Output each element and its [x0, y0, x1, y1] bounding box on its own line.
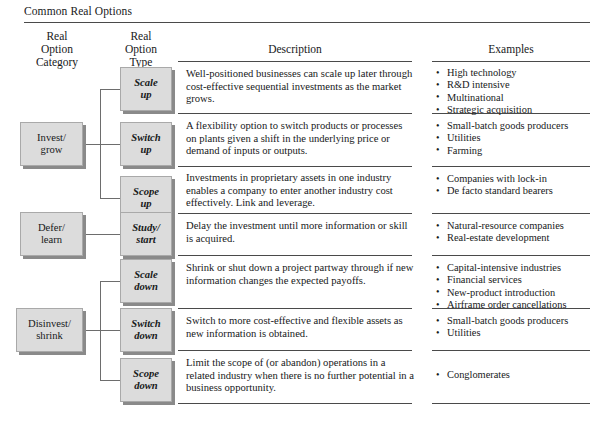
row-separator-7-examples	[432, 403, 590, 404]
examples-list-1: High technologyR&D intensiveMultinationa…	[436, 67, 594, 117]
examples-list-5: Capital-intensive industriesFinancial se…	[436, 262, 594, 312]
row-separator-2-examples	[432, 166, 590, 167]
row-separator-7-description	[178, 403, 412, 404]
example-item: Small-batch goods producers	[436, 315, 594, 327]
examples-cell-4: Natural-resource companiesReal-estate de…	[436, 220, 594, 245]
connector-stem-invest-grow	[83, 144, 101, 145]
row-separator-1-description	[178, 113, 412, 114]
connector-stem-defer-learn	[83, 234, 121, 235]
connector-branch-scope-up	[100, 198, 120, 199]
type-box-scope-up-label: Scopeup	[133, 186, 159, 211]
connector-branch-scope-down	[100, 380, 120, 381]
example-item: Real-estate development	[436, 232, 594, 244]
connector-branch-switch-up	[100, 144, 120, 145]
row-separator-6-examples	[432, 350, 590, 351]
type-box-scale-up[interactable]: Scaleup	[120, 67, 172, 111]
type-box-study-start[interactable]: Study/start	[120, 212, 172, 256]
example-item: Multinational	[436, 92, 594, 104]
description-cell-2: A flexibility option to switch products …	[186, 120, 414, 158]
example-item: R&D intensive	[436, 79, 594, 91]
type-box-switch-down-label: Switchdown	[131, 318, 160, 343]
description-cell-5: Shrink or shut down a project partway th…	[186, 262, 414, 287]
example-item: Strategic acquisition	[436, 104, 594, 116]
column-header-type: RealOptionType	[100, 30, 182, 70]
description-cell-6: Switch to more cost-effective and flexib…	[186, 315, 414, 340]
examples-list-6: Small-batch goods producersUtilities	[436, 315, 594, 340]
connector-branch-switch-down	[100, 330, 120, 331]
example-item: Small-batch goods producers	[436, 120, 594, 132]
type-box-switch-up-label: Switchup	[131, 132, 160, 157]
examples-list-4: Natural-resource companiesReal-estate de…	[436, 220, 594, 245]
examples-cell-2: Small-batch goods producersUtilitiesFarm…	[436, 120, 594, 157]
category-box-invest-grow[interactable]: Invest/grow	[20, 122, 83, 166]
connector-branch-scale-down	[100, 281, 120, 282]
row-separator-2-description	[178, 166, 412, 167]
category-box-disinvest-shrink-label: Disinvest/shrink	[28, 318, 71, 343]
example-item: New-product introduction	[436, 287, 594, 299]
connector-stem-disinvest-shrink	[83, 330, 101, 331]
example-item: Natural-resource companies	[436, 220, 594, 232]
examples-header-rule	[432, 61, 590, 62]
category-box-defer-learn[interactable]: Defer/learn	[20, 212, 83, 256]
row-separator-4-examples	[432, 255, 590, 256]
column-header-category: RealOptionCategory	[14, 30, 100, 70]
column-header-description: Description	[178, 43, 412, 56]
examples-list-3: Companies with lock-inDe facto standard …	[436, 173, 594, 198]
type-box-study-start-label: Study/start	[132, 222, 160, 247]
connector-branch-scale-up	[100, 89, 120, 90]
examples-list-7: Conglomerates	[436, 369, 594, 381]
row-separator-5-description	[178, 308, 412, 309]
row-separator-3-description	[178, 213, 412, 214]
example-item: Financial services	[436, 274, 594, 286]
examples-cell-5: Capital-intensive industriesFinancial se…	[436, 262, 594, 312]
example-item: De facto standard bearers	[436, 185, 594, 197]
example-item: High technology	[436, 67, 594, 79]
row-separator-3-examples	[432, 213, 590, 214]
category-box-defer-learn-label: Defer/learn	[38, 222, 65, 247]
description-cell-1: Well-positioned businesses can scale up …	[186, 68, 414, 106]
row-separator-4-description	[178, 255, 412, 256]
column-header-examples: Examples	[432, 43, 590, 56]
category-box-invest-grow-label: Invest/grow	[37, 132, 66, 157]
examples-cell-3: Companies with lock-inDe facto standard …	[436, 173, 594, 198]
description-cell-3: Investments in proprietary assets in one…	[186, 172, 414, 210]
type-box-scope-down-label: Scopedown	[133, 368, 159, 393]
example-item: Utilities	[436, 132, 594, 144]
examples-cell-6: Small-batch goods producersUtilities	[436, 315, 594, 340]
examples-cell-7: Conglomerates	[436, 369, 594, 381]
example-item: Conglomerates	[436, 369, 594, 381]
type-box-scope-down[interactable]: Scopedown	[120, 358, 172, 402]
examples-list-2: Small-batch goods producersUtilitiesFarm…	[436, 120, 594, 157]
title-rule	[24, 22, 590, 23]
type-box-scale-down[interactable]: Scaledown	[120, 259, 172, 303]
category-box-disinvest-shrink[interactable]: Disinvest/shrink	[16, 308, 83, 352]
example-item: Capital-intensive industries	[436, 262, 594, 274]
example-item: Airframe order cancellations	[436, 299, 594, 311]
examples-cell-1: High technologyR&D intensiveMultinationa…	[436, 67, 594, 117]
example-item: Companies with lock-in	[436, 173, 594, 185]
figure-common-real-options: Common Real Options RealOptionCategory R…	[0, 0, 596, 423]
type-box-scale-down-label: Scaledown	[134, 269, 158, 294]
example-item: Farming	[436, 145, 594, 157]
example-item: Utilities	[436, 327, 594, 339]
row-separator-6-description	[178, 350, 412, 351]
description-header-rule	[178, 61, 412, 62]
type-box-switch-up[interactable]: Switchup	[120, 122, 172, 166]
figure-title: Common Real Options	[24, 5, 132, 17]
type-box-switch-down[interactable]: Switchdown	[120, 308, 172, 352]
description-cell-4: Delay the investment until more informat…	[186, 220, 414, 245]
description-cell-7: Limit the scope of (or abandon) operatio…	[186, 357, 414, 395]
type-box-scale-up-label: Scaleup	[134, 77, 158, 102]
